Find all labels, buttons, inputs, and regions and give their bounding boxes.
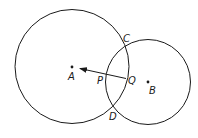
label-c: C <box>123 33 130 44</box>
point-a-dot <box>71 66 74 69</box>
label-b: B <box>149 85 156 96</box>
label-p: P <box>97 75 104 86</box>
intersecting-circles-diagram: A B C D P Q <box>0 0 198 138</box>
point-b-dot <box>147 81 150 84</box>
label-a: A <box>67 71 75 82</box>
label-q: Q <box>128 75 136 86</box>
label-d: D <box>109 111 117 122</box>
